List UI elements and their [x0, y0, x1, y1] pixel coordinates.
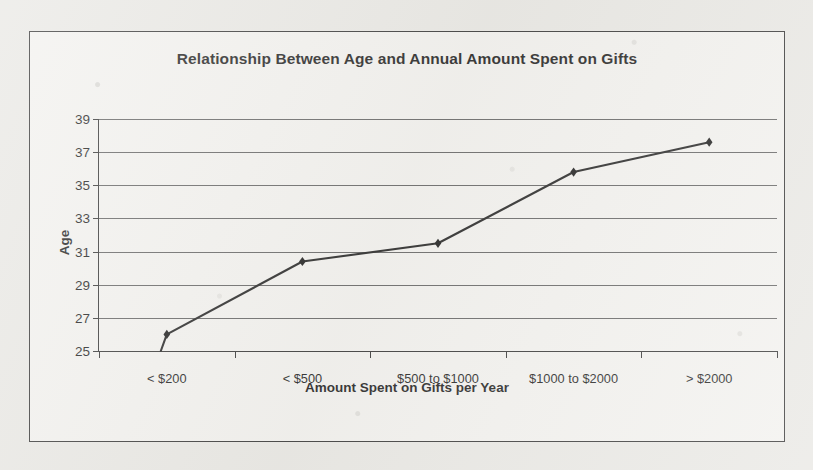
y-tick-label-27: 27	[75, 310, 90, 325]
data-point-1	[299, 257, 306, 266]
series-markers	[163, 138, 712, 339]
x-tick-5	[777, 351, 778, 358]
y-tick-label-39: 39	[75, 112, 90, 127]
y-tick-label-33: 33	[75, 211, 90, 226]
data-point-2	[435, 239, 442, 248]
x-tick-2	[370, 351, 371, 358]
plot-area: 39 37 35 33 31 29 27 25 < $200 < $500 $5…	[98, 119, 777, 352]
y-tick-label-35: 35	[75, 178, 90, 193]
x-tick-0	[99, 351, 100, 358]
x-tick-3	[506, 351, 507, 358]
chart-title: Relationship Between Age and Annual Amou…	[30, 50, 784, 68]
data-series-age	[99, 119, 777, 351]
x-axis-title: Amount Spent on Gifts per Year	[30, 380, 784, 395]
data-point-4	[706, 138, 713, 147]
x-tick-1	[235, 351, 236, 358]
y-tick-label-31: 31	[75, 244, 90, 259]
y-tick-label-37: 37	[75, 145, 90, 160]
series-line	[161, 142, 709, 351]
chart-frame: Relationship Between Age and Annual Amou…	[29, 31, 785, 442]
data-point-3	[570, 167, 577, 176]
x-tick-4	[641, 351, 642, 358]
y-tick-label-29: 29	[75, 277, 90, 292]
y-tick-label-25: 25	[75, 344, 90, 359]
y-axis-title: Age	[57, 230, 72, 256]
data-point-0	[163, 330, 170, 339]
